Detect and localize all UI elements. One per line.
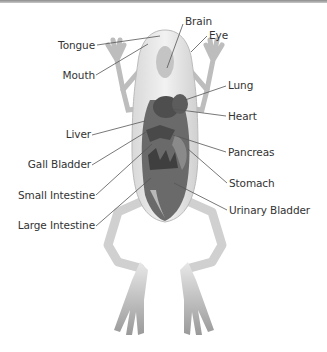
label-gall-bladder: Gall Bladder: [0, 158, 91, 170]
label-heart: Heart: [228, 110, 257, 122]
label-eye: Eye: [209, 29, 228, 41]
label-stomach: Stomach: [229, 177, 275, 189]
label-pancreas: Pancreas: [228, 146, 274, 158]
label-urinary-bladder: Urinary Bladder: [229, 204, 310, 216]
label-tongue: Tongue: [20, 39, 95, 51]
label-mouth: Mouth: [20, 69, 95, 81]
frog-illustration: [0, 0, 327, 352]
label-large-intestine: Large Intestine: [0, 219, 95, 231]
label-brain: Brain: [185, 15, 212, 27]
label-liver: Liver: [20, 128, 91, 140]
brain-shape: [156, 46, 174, 78]
label-small-intestine: Small Intestine: [0, 189, 95, 201]
right-foot: [180, 262, 214, 335]
left-foot: [114, 262, 148, 335]
label-lung: Lung: [228, 79, 253, 91]
